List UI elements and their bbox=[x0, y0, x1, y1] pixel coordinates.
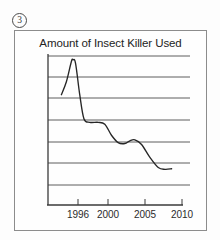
data-series-line bbox=[61, 59, 171, 169]
x-tick-label-1996: 1996 bbox=[67, 209, 90, 220]
question-number-badge: 3 bbox=[12, 13, 27, 28]
gridline-group bbox=[48, 56, 190, 185]
x-tick-label-2000: 2000 bbox=[97, 209, 120, 220]
line-chart: 1996 2000 2005 2010 bbox=[14, 30, 207, 231]
x-tick-group bbox=[78, 199, 182, 205]
x-tick-label-2005: 2005 bbox=[134, 209, 157, 220]
x-tick-label-2010: 2010 bbox=[171, 209, 194, 220]
